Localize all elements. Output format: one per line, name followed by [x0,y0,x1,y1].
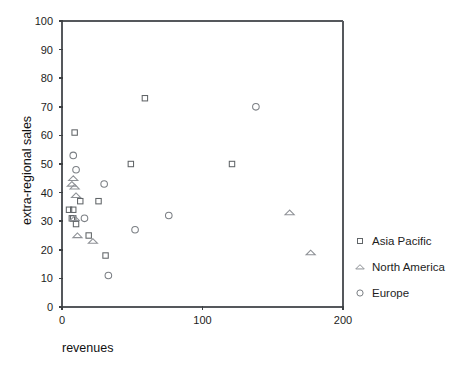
y-tick-label: 50 [41,158,53,170]
x-axis-title: revenues [62,341,113,355]
series-asia-pacific [66,96,234,259]
axis-tick-labels: 01020304050607080901000100200 [35,15,353,326]
data-point [132,226,139,233]
y-tick-label: 0 [47,301,53,313]
y-tick-label: 100 [35,15,53,27]
x-tick-label: 200 [334,314,352,326]
data-point [70,152,77,159]
legend-marker-triangle [356,265,365,269]
y-tick-label: 80 [41,72,53,84]
y-tick-label: 70 [41,101,53,113]
data-point [69,176,78,181]
data-point [78,198,83,203]
axes [62,21,343,307]
legend-label: Europe [372,287,409,299]
data-point [70,184,79,189]
y-tick-label: 30 [41,215,53,227]
y-tick-label: 20 [41,244,53,256]
data-point [72,130,77,135]
chart-canvas: 01020304050607080901000100200 Asia Pacif… [0,0,458,370]
data-point [285,210,294,215]
chart-legend: Asia PacificNorth AmericaEurope [356,235,446,299]
data-point [71,193,80,198]
data-point [128,161,133,166]
data-point [103,253,108,258]
data-point [81,215,88,222]
data-point [96,198,101,203]
x-tick-label: 100 [193,314,211,326]
y-tick-label: 90 [41,44,53,56]
data-points [66,96,315,279]
data-point [88,239,97,244]
x-tick-label: 0 [59,314,65,326]
series-europe [70,104,259,279]
data-point [142,96,147,101]
data-point [73,166,80,173]
data-point [73,221,78,226]
legend-label: North America [372,261,445,273]
axis-ticks [59,21,343,310]
data-point [229,161,234,166]
data-point [73,233,82,238]
legend-label: Asia Pacific [372,235,432,247]
y-tick-label: 60 [41,129,53,141]
legend-marker-square [358,239,363,244]
data-point [165,212,172,219]
data-point [253,104,260,111]
y-axis-title: extra-regional sales [20,116,34,225]
data-point [101,181,108,188]
legend-marker-circle [357,290,363,296]
data-point [105,272,112,279]
scatter-chart: 01020304050607080901000100200 Asia Pacif… [0,0,458,370]
data-point [86,233,91,238]
y-tick-label: 40 [41,187,53,199]
data-point [306,250,315,255]
y-tick-label: 10 [41,272,53,284]
